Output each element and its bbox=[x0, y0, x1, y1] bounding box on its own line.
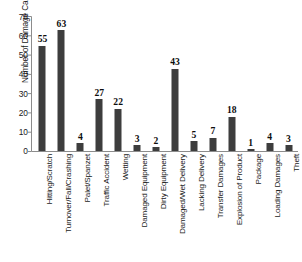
bar bbox=[209, 138, 216, 151]
x-axis-tick-label-slot: Explosion of Product bbox=[222, 154, 241, 262]
bar-value-label: 1 bbox=[248, 138, 253, 148]
bar-value-label: 3 bbox=[135, 134, 140, 144]
bar-group: 5 bbox=[184, 17, 203, 151]
x-axis-tick-labels: Hitting/ScratchTurnover/Fall/CrashingPal… bbox=[33, 154, 298, 262]
bar-value-label: 7 bbox=[210, 126, 215, 136]
bar-value-label: 4 bbox=[267, 132, 272, 142]
x-axis-tick-label-slot: Theft bbox=[279, 154, 298, 262]
bar bbox=[115, 109, 122, 151]
x-axis-tick-label-slot: Damaged/Wet Delivery bbox=[166, 154, 185, 262]
bar-group: 1 bbox=[241, 17, 260, 151]
bar-chart: Number of Damage Cases 010203040506070 5… bbox=[0, 0, 302, 262]
bar-value-label: 27 bbox=[94, 88, 104, 98]
bar-value-label: 43 bbox=[170, 57, 180, 67]
plot-area: 55634272232435718143 bbox=[33, 17, 298, 151]
bar bbox=[228, 117, 235, 151]
bar-group: 3 bbox=[279, 17, 298, 151]
x-axis-tick-label-slot: Package bbox=[241, 154, 260, 262]
bar-group: 55 bbox=[33, 17, 52, 151]
bar-value-label: 55 bbox=[38, 34, 48, 44]
x-axis-tick-label-slot: Hitting/Scratch bbox=[33, 154, 52, 262]
bar bbox=[39, 46, 46, 151]
bar bbox=[58, 30, 65, 151]
bar-group: 3 bbox=[128, 17, 147, 151]
bar-group: 27 bbox=[90, 17, 109, 151]
bar bbox=[77, 143, 84, 151]
bar bbox=[153, 147, 160, 151]
x-axis-tick-label-slot: Transfer Damages bbox=[203, 154, 222, 262]
bar-value-label: 22 bbox=[113, 97, 123, 107]
x-axis-tick-label-slot: Loading Damages bbox=[260, 154, 279, 262]
x-axis-tick-label-slot: Palet/Spanzet bbox=[71, 154, 90, 262]
bar-group: 18 bbox=[222, 17, 241, 151]
bar-value-label: 63 bbox=[57, 19, 67, 29]
bar-group: 2 bbox=[147, 17, 166, 151]
bar-value-label: 5 bbox=[191, 130, 196, 140]
bar-group: 4 bbox=[260, 17, 279, 151]
bar-value-label: 4 bbox=[78, 132, 83, 142]
bar-group: 43 bbox=[166, 17, 185, 151]
bar bbox=[134, 145, 141, 151]
bar-group: 22 bbox=[109, 17, 128, 151]
x-axis-tick-label: Theft bbox=[292, 154, 301, 172]
bar-group: 4 bbox=[71, 17, 90, 151]
x-axis-tick-label-slot: Wetting bbox=[109, 154, 128, 262]
bar bbox=[190, 141, 197, 151]
bar bbox=[247, 149, 254, 151]
bar bbox=[96, 99, 103, 151]
x-axis-tick-label-slot: Lacking Delivery bbox=[184, 154, 203, 262]
bar-value-label: 2 bbox=[154, 136, 159, 146]
bar bbox=[266, 143, 273, 151]
x-axis-tick-label-slot: Dirty Equipment bbox=[147, 154, 166, 262]
bar bbox=[171, 69, 178, 151]
bar-value-label: 18 bbox=[227, 105, 237, 115]
bar-value-label: 3 bbox=[286, 134, 291, 144]
x-axis-tick-label-slot: Damaged Equipment bbox=[128, 154, 147, 262]
x-axis-tick-label-slot: Traffic Accident bbox=[90, 154, 109, 262]
x-axis-tick-label-slot: Turnover/Fall/Crashing bbox=[52, 154, 71, 262]
bar-group: 7 bbox=[203, 17, 222, 151]
bar-group: 63 bbox=[52, 17, 71, 151]
bar bbox=[285, 145, 292, 151]
